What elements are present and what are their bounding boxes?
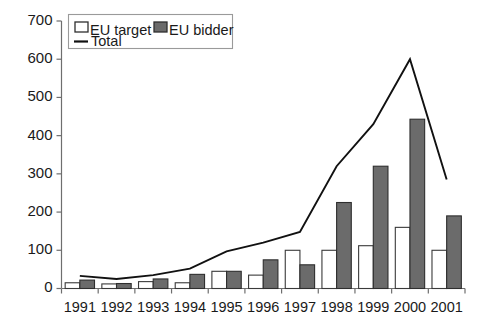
bar-eu-bidder-1994: [190, 274, 205, 288]
x-tick-label-2000: 2000: [394, 299, 426, 315]
x-axis: 1991199219931994199519961997199819992000…: [62, 289, 466, 316]
x-tick-label-1998: 1998: [320, 299, 352, 315]
y-tick-label-700: 700: [27, 11, 52, 28]
y-tick-label-300: 300: [27, 164, 52, 181]
x-tick-label-1999: 1999: [357, 299, 389, 315]
bar-eu-target-1999: [359, 246, 374, 289]
bar-eu-target-2000: [395, 227, 410, 288]
y-tick-label-200: 200: [27, 202, 52, 219]
bar-eu-bidder-1996: [263, 260, 278, 289]
bar-eu-bidder-2001: [447, 216, 462, 289]
bar-group-eu-target: [65, 227, 446, 288]
y-tick-label-100: 100: [27, 240, 52, 257]
x-tick-label-1996: 1996: [247, 299, 279, 315]
x-tick-label-1992: 1992: [100, 299, 132, 315]
x-axis-tick-labels: 1991199219931994199519961997199819992000…: [64, 299, 463, 315]
legend-label-total: Total: [91, 33, 122, 49]
legend-label-eu-bidder: EU bidder: [169, 22, 234, 38]
bar-eu-bidder-1997: [300, 265, 315, 289]
legend: EU target EU bidder Total: [69, 15, 234, 49]
legend-swatch-eu-target-icon: [75, 22, 88, 32]
bar-eu-bidder-1998: [337, 203, 352, 289]
y-tick-label-400: 400: [27, 126, 52, 143]
bar-eu-bidder-1992: [117, 284, 132, 289]
bar-eu-target-1995: [212, 271, 227, 288]
x-tick-label-1997: 1997: [284, 299, 316, 315]
legend-swatch-eu-bidder-icon: [154, 22, 167, 32]
bar-eu-target-1997: [285, 250, 300, 288]
x-axis-ticks: [62, 289, 466, 294]
bar-eu-target-1991: [65, 283, 80, 289]
bar-eu-target-1993: [139, 282, 154, 289]
bar-eu-bidder-1999: [373, 166, 388, 288]
bar-eu-target-1994: [175, 283, 190, 289]
total-line-series: [80, 59, 447, 279]
y-axis-ticks: [57, 21, 62, 289]
x-tick-label-2001: 2001: [431, 299, 463, 315]
y-axis-tick-labels: 0100200300400500600700: [27, 11, 52, 296]
y-tick-label-600: 600: [27, 49, 52, 66]
bar-eu-bidder-1991: [80, 280, 95, 288]
bar-eu-target-1998: [322, 250, 337, 288]
y-tick-label-0: 0: [44, 278, 52, 295]
bar-eu-target-2001: [432, 250, 447, 288]
x-tick-label-1994: 1994: [174, 299, 206, 315]
combo-bar-line-chart: 0100200300400500600700 19911992199319941…: [0, 0, 479, 335]
x-tick-label-1991: 1991: [64, 299, 96, 315]
x-tick-label-1995: 1995: [210, 299, 242, 315]
chart-container: 0100200300400500600700 19911992199319941…: [0, 0, 479, 335]
bar-eu-bidder-1995: [227, 271, 242, 288]
bar-eu-bidder-1993: [153, 279, 168, 289]
y-axis: 0100200300400500600700: [27, 11, 61, 296]
y-tick-label-500: 500: [27, 87, 52, 104]
bar-eu-target-1996: [249, 275, 264, 288]
bar-eu-target-1992: [102, 284, 117, 289]
bar-eu-bidder-2000: [410, 119, 425, 288]
x-tick-label-1993: 1993: [137, 299, 169, 315]
